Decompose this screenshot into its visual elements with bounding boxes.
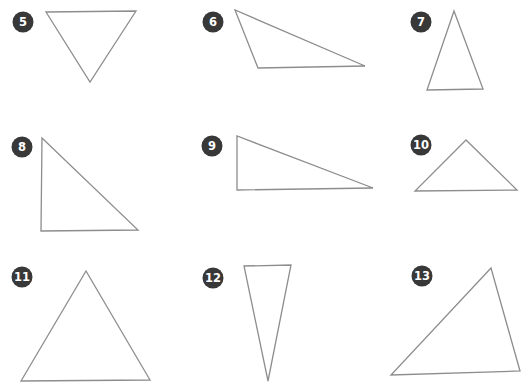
figure-9: 9 <box>202 136 374 191</box>
triangle-5 <box>46 11 136 82</box>
number-badge-label: 6 <box>209 15 217 29</box>
triangle-7 <box>427 11 483 90</box>
figure-5: 5 <box>13 11 137 82</box>
triangle-6 <box>235 10 365 68</box>
triangle-11 <box>21 271 150 381</box>
triangle-13 <box>391 268 520 375</box>
triangle-9 <box>237 136 373 190</box>
figure-8: 8 <box>12 137 139 232</box>
number-badge-label: 9 <box>208 139 216 153</box>
triangle-8 <box>41 138 138 231</box>
figure-7: 7 <box>411 11 484 90</box>
figure-6: 6 <box>203 10 366 68</box>
triangle-worksheet-canvas: 5 6 7 8 9 10 11 12 <box>0 0 529 388</box>
number-badge-label: 13 <box>414 269 430 283</box>
triangle-12 <box>244 265 291 381</box>
figure-12: 12 <box>203 265 292 381</box>
number-badge-label: 7 <box>417 15 425 29</box>
number-badge-label: 10 <box>413 138 429 152</box>
figure-11: 11 <box>12 267 151 382</box>
number-badge-label: 12 <box>205 271 221 285</box>
number-badge-label: 5 <box>19 15 27 29</box>
figure-13: 13 <box>391 266 520 376</box>
figure-10: 10 <box>411 135 518 192</box>
number-badge-label: 11 <box>14 270 30 284</box>
number-badge-label: 8 <box>18 140 26 154</box>
